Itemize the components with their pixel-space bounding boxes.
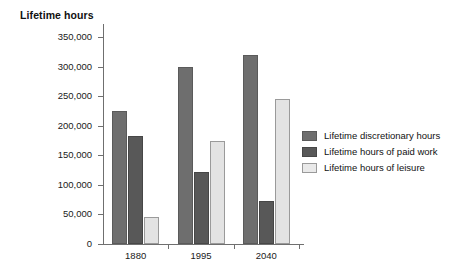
legend-swatch (302, 131, 317, 141)
x-axis-tick (168, 245, 169, 249)
x-axis-label: 1995 (179, 250, 223, 261)
bar (178, 67, 193, 244)
bar (144, 217, 159, 244)
legend-swatch (302, 147, 317, 157)
legend-label: Lifetime hours of paid work (324, 146, 438, 157)
legend-swatch (302, 163, 317, 173)
x-axis-label: 1880 (114, 250, 158, 261)
y-axis-tick-label: 300,000 (30, 61, 92, 72)
x-axis-tick (234, 245, 235, 249)
bar-chart-figure: Lifetime hours 050,000100,000150,000200,… (0, 0, 475, 276)
bar (210, 141, 225, 245)
y-axis-tick (98, 244, 103, 245)
legend-label: Lifetime hours of leisure (324, 162, 425, 173)
y-axis-title: Lifetime hours (20, 9, 94, 21)
y-axis-tick-label: 100,000 (30, 179, 92, 190)
legend-label: Lifetime discretionary hours (324, 130, 440, 141)
chart-legend: Lifetime discretionary hoursLifetime hou… (302, 128, 440, 176)
y-axis-tick-label: 250,000 (30, 90, 92, 101)
bar (194, 172, 209, 244)
bar (275, 99, 290, 244)
bar (259, 201, 274, 244)
x-axis-label: 2040 (244, 250, 288, 261)
legend-item: Lifetime discretionary hours (302, 128, 440, 143)
bar (128, 136, 143, 244)
plot-area (103, 32, 299, 244)
y-axis-tick-label: 350,000 (30, 31, 92, 42)
y-axis-tick-label: 50,000 (30, 208, 92, 219)
legend-item: Lifetime hours of leisure (302, 160, 440, 175)
bar (112, 111, 127, 244)
y-axis-tick-label: 200,000 (30, 120, 92, 131)
x-axis-tick (299, 245, 300, 249)
bar (243, 55, 258, 244)
legend-item: Lifetime hours of paid work (302, 144, 440, 159)
y-axis-tick-label: 150,000 (30, 149, 92, 160)
x-axis-line (103, 244, 304, 245)
y-axis-tick-label: 0 (30, 238, 92, 249)
